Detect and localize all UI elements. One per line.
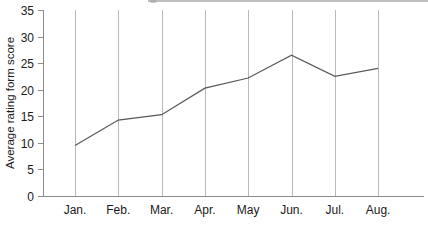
- y-tick-label-15: 15: [21, 110, 35, 124]
- y-tick-label-35: 35: [21, 4, 35, 18]
- y-tick-label-30: 30: [21, 31, 35, 45]
- x-tick-label-aug: Aug.: [366, 203, 391, 217]
- x-tick-label-jun: Jun.: [280, 203, 303, 217]
- y-axis-title: Average rating form score: [4, 37, 16, 169]
- y-tick-label-25: 25: [21, 57, 35, 71]
- y-tick-label-20: 20: [21, 84, 35, 98]
- x-tick-label-jul: Jul.: [325, 203, 344, 217]
- x-tick-label-may: May: [237, 203, 260, 217]
- y-axis-ticks: [38, 11, 44, 197]
- x-tick-label-mar: Mar.: [150, 203, 173, 217]
- vertical-gridlines: [76, 10, 379, 196]
- y-tick-label-0: 0: [27, 190, 34, 204]
- line-chart-figure: 05101520253035 Jan.Feb.Mar.Apr.MayJun.Ju…: [0, 0, 428, 229]
- x-tick-label-jan: Jan.: [64, 203, 87, 217]
- x-tick-label-apr: Apr.: [194, 203, 215, 217]
- x-tick-label-feb: Feb.: [106, 203, 130, 217]
- chart-plot-area: 05101520253035 Jan.Feb.Mar.Apr.MayJun.Ju…: [0, 0, 428, 229]
- y-axis-tick-labels: 05101520253035: [21, 4, 35, 204]
- x-axis-tick-labels: Jan.Feb.Mar.Apr.MayJun.Jul.Aug.: [64, 203, 391, 217]
- y-tick-label-5: 5: [27, 163, 34, 177]
- y-tick-label-10: 10: [21, 137, 35, 151]
- data-series-line: [75, 55, 378, 145]
